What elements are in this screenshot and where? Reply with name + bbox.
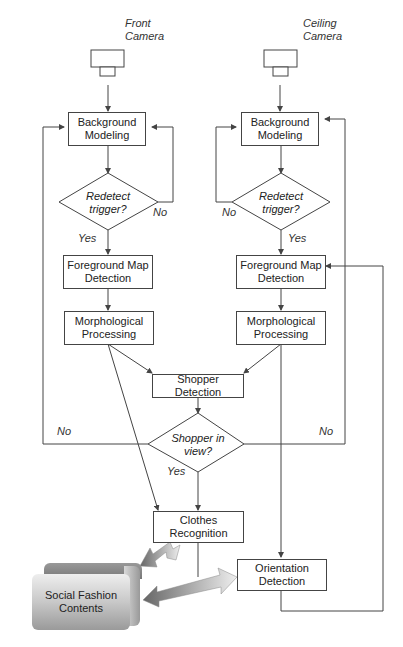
shopper-no-left-label: No: [57, 425, 71, 437]
right-morphological-processing: MorphologicalProcessing: [236, 311, 326, 345]
orientation-social-double-arrow: [143, 568, 237, 607]
clothes-recognition: ClothesRecognition: [153, 511, 244, 543]
front-camera-label: FrontCamera: [125, 17, 164, 43]
left-foreground-map-detection: Foreground MapDetection: [63, 255, 153, 289]
shopper-detection: Shopper Detection: [152, 374, 244, 398]
shopper-no-right-label: No: [319, 425, 333, 437]
left-morphological-processing: MorphologicalProcessing: [64, 311, 154, 345]
left-no-label: No: [153, 206, 167, 218]
ceiling-camera-label: CeilingCamera: [303, 17, 342, 43]
social-fashion-contents: Social FashionContents: [32, 574, 130, 630]
right-background-modeling: BackgroundModeling: [241, 112, 319, 146]
flowchart-connectors: [0, 0, 403, 647]
shopper-yes-label: Yes: [167, 465, 185, 477]
ceiling-camera-icon: [264, 50, 297, 67]
clothes-social-double-arrow: [140, 542, 180, 567]
left-background-modeling: BackgroundModeling: [68, 112, 146, 146]
right-yes-label: Yes: [288, 232, 306, 244]
left-redetect-trigger: Redetecttrigger?: [78, 190, 138, 216]
shopper-in-view-decision: Shopper inview?: [163, 432, 233, 458]
right-no-label: No: [222, 206, 236, 218]
right-redetect-trigger: Redetecttrigger?: [251, 190, 311, 216]
left-yes-label: Yes: [78, 232, 96, 244]
orientation-detection: OrientationDetection: [237, 559, 327, 591]
front-camera-icon: [91, 50, 124, 67]
right-foreground-map-detection: Foreground MapDetection: [236, 255, 326, 289]
